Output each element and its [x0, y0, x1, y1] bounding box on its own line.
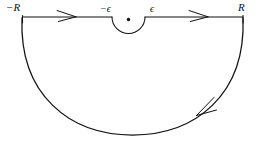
contour-diagram-canvas: [0, 0, 258, 142]
pole-at-origin-dot: [127, 18, 130, 21]
arrow-large-arc-icon: [197, 98, 217, 116]
label-epsilon: ϵ: [150, 3, 154, 14]
label-minus-epsilon: −ϵ: [100, 3, 111, 14]
label-R: R: [238, 2, 245, 13]
label-minus-R: −R: [6, 2, 20, 13]
contour-figure: −R −ϵ ϵ R: [0, 0, 258, 142]
arrow-left-segment-icon: [57, 11, 76, 22]
arrow-right-segment-icon: [189, 11, 208, 22]
large-semicircular-arc: [22, 18, 243, 135]
